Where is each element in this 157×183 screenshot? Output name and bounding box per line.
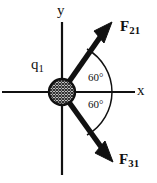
angle-label-lower: 60° <box>88 99 103 110</box>
charge-circle <box>49 79 75 105</box>
x-axis-label: x <box>137 83 145 98</box>
charge-label-q1: q1 <box>31 57 44 74</box>
y-axis-label: y <box>57 3 65 18</box>
force-label-f21-subscript: 21 <box>129 24 140 36</box>
force-diagram-figure: y x q1 F21 F31 60° 60° <box>0 0 157 183</box>
force-label-f31: F31 <box>119 152 139 169</box>
angle-label-upper: 60° <box>88 72 103 83</box>
force-label-f21: F21 <box>120 19 140 36</box>
force-label-f31-base: F <box>119 151 128 167</box>
force-label-f31-subscript: 31 <box>128 157 139 169</box>
charge-label-base: q <box>31 56 39 72</box>
force-label-f21-base: F <box>120 18 129 34</box>
charge-label-subscript: 1 <box>39 62 45 74</box>
